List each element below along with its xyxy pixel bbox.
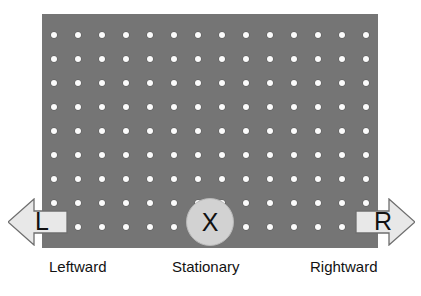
dot [219, 176, 225, 182]
dot [195, 104, 201, 110]
dot [51, 32, 57, 38]
dot [339, 128, 345, 134]
dot [123, 56, 129, 62]
dot [75, 104, 81, 110]
dot [123, 32, 129, 38]
dot [171, 152, 177, 158]
dot [171, 176, 177, 182]
dot [123, 176, 129, 182]
dot [243, 32, 249, 38]
dot [219, 128, 225, 134]
dot [315, 128, 321, 134]
dot [315, 32, 321, 38]
dot [75, 176, 81, 182]
dot [363, 176, 369, 182]
dot [291, 224, 297, 230]
caption-rightward: Rightward [310, 258, 378, 275]
dot [267, 104, 273, 110]
dot [51, 104, 57, 110]
dot [291, 128, 297, 134]
dot [267, 56, 273, 62]
dot [291, 32, 297, 38]
dot [147, 104, 153, 110]
dot [75, 56, 81, 62]
dot [339, 32, 345, 38]
dot [99, 224, 105, 230]
dot [123, 104, 129, 110]
dot [243, 80, 249, 86]
dot [291, 200, 297, 206]
dot [291, 152, 297, 158]
dot [243, 224, 249, 230]
dot [267, 128, 273, 134]
dot [339, 176, 345, 182]
dot [363, 152, 369, 158]
response-option-rightward[interactable]: R [355, 198, 415, 246]
dot [339, 56, 345, 62]
stimulus-diagram: L X R Leftward Stationary Rightward [0, 0, 421, 296]
dot [267, 224, 273, 230]
dot [195, 128, 201, 134]
dot [195, 176, 201, 182]
dot [291, 56, 297, 62]
dot [219, 56, 225, 62]
dot [267, 32, 273, 38]
dot [171, 104, 177, 110]
dot [339, 224, 345, 230]
dot [51, 176, 57, 182]
dot [243, 56, 249, 62]
dot [147, 56, 153, 62]
dot [99, 56, 105, 62]
dot [339, 104, 345, 110]
dot [147, 200, 153, 206]
dot [363, 128, 369, 134]
dot [171, 56, 177, 62]
dot [171, 32, 177, 38]
dot [195, 32, 201, 38]
dot [171, 224, 177, 230]
dot [219, 104, 225, 110]
response-option-leftward-marker: L [35, 198, 59, 246]
dot [123, 128, 129, 134]
dot [315, 56, 321, 62]
dot [99, 80, 105, 86]
dot [123, 80, 129, 86]
dot [75, 200, 81, 206]
dot [147, 224, 153, 230]
dot [195, 80, 201, 86]
dot [171, 80, 177, 86]
dot [339, 80, 345, 86]
dot [315, 80, 321, 86]
dot [147, 128, 153, 134]
caption-leftward: Leftward [49, 258, 107, 275]
response-option-leftward[interactable]: L [8, 198, 68, 246]
dot [147, 32, 153, 38]
response-option-rightward-marker: R [366, 198, 392, 246]
dot [99, 104, 105, 110]
dot [147, 80, 153, 86]
dot [75, 128, 81, 134]
dot [75, 32, 81, 38]
dot [315, 104, 321, 110]
dot [243, 128, 249, 134]
dot [99, 128, 105, 134]
dot [171, 128, 177, 134]
dot [75, 224, 81, 230]
dot [195, 56, 201, 62]
dot [315, 224, 321, 230]
dot [219, 80, 225, 86]
dot [315, 200, 321, 206]
dot [243, 152, 249, 158]
dot [123, 152, 129, 158]
dot [99, 176, 105, 182]
caption-stationary: Stationary [172, 258, 240, 275]
dot [363, 32, 369, 38]
response-option-stationary[interactable]: X [186, 198, 234, 246]
dot [219, 32, 225, 38]
dot [75, 152, 81, 158]
dot [99, 152, 105, 158]
dot [291, 104, 297, 110]
dot [243, 176, 249, 182]
dot [339, 152, 345, 158]
dot [51, 128, 57, 134]
